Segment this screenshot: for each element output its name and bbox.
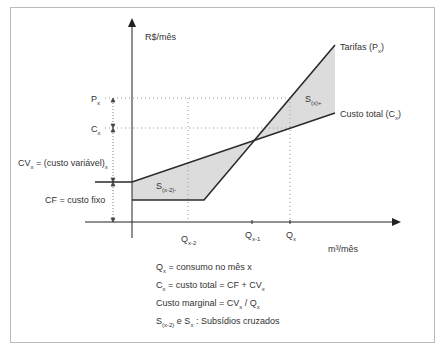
y-axis-label: R$/mês [145,32,177,42]
area-s-x2 [132,141,252,200]
label-tarifas: Tarifas (Px) [340,42,384,54]
label-custo-total: Custo total (Cx) [340,109,401,121]
label-cv: CVx = (custo variável)x [18,158,108,170]
label-cf: CF = custo fixo [45,195,105,205]
label-cx: Cx [91,124,101,136]
legend-item: S(x-2) e Sx : Subsídios cruzados [156,316,280,328]
label-px: Px [91,94,100,106]
label-q-x: Qx [286,230,296,242]
y-axis-arrow-icon [128,18,136,27]
legend-item: Qx = consumo no mês x [156,262,252,274]
label-q-x2: Qx-2 [181,234,197,246]
subsidy-diagram: R$/mês Px Cx CVx = (custo variável)x CF … [0,0,443,355]
x-axis-arrow-icon [392,218,401,226]
legend-item: Custo marginal = CVx / Qx [156,298,260,310]
legend: Qx = consumo no mês x Cx = custo total =… [156,262,280,328]
dimension-arrows [111,98,115,222]
legend-item: Cx = custo total = CF + CVx [156,280,265,292]
x-axis-label: m³/mês [328,244,358,254]
label-q-x1: Qx-1 [245,230,261,242]
